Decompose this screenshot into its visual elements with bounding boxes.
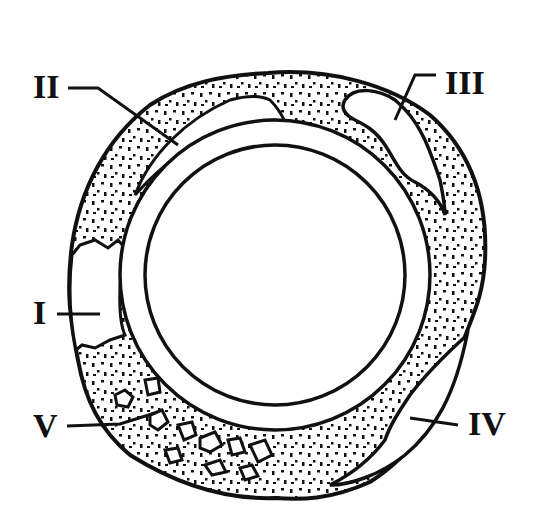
diagram-canvas: II III I IV V [0,0,550,515]
label-v: V [33,409,58,443]
label-iii: III [445,66,485,100]
label-i: I [33,296,46,330]
pipe-inner-wall [145,145,405,405]
label-iv: IV [468,407,506,441]
region-i [70,240,125,350]
label-ii: II [33,70,59,104]
